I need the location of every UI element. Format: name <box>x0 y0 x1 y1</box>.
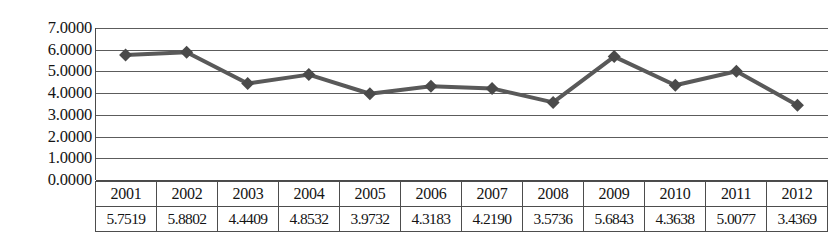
table-cell-year: 2012 <box>767 182 828 207</box>
table-cell-year: 2009 <box>584 182 645 207</box>
table-cell-value: 4.2190 <box>462 207 523 232</box>
data-point-marker <box>302 68 315 81</box>
table-cell-value: 5.6843 <box>584 207 645 232</box>
plot-area <box>95 28 828 180</box>
data-point-marker <box>119 49 132 62</box>
table-cell-year: 2005 <box>340 182 401 207</box>
data-series-line <box>95 28 828 180</box>
table-cell-year: 2010 <box>645 182 706 207</box>
table-cell-value: 5.7519 <box>96 207 157 232</box>
y-tick-label: 7.0000 <box>24 20 92 36</box>
data-point-marker <box>669 79 682 92</box>
y-axis: 7.00006.00005.00004.00003.00002.00001.00… <box>24 18 92 190</box>
data-point-marker <box>486 82 499 95</box>
y-tick-label: 3.0000 <box>24 107 92 123</box>
y-tick-label: 5.0000 <box>24 63 92 79</box>
table-cell-year: 2003 <box>218 182 279 207</box>
table-cell-value: 3.9732 <box>340 207 401 232</box>
table-cell-value: 4.3638 <box>645 207 706 232</box>
table-cell-value: 3.4369 <box>767 207 828 232</box>
chart-figure: 7.00006.00005.00004.00003.00002.00001.00… <box>0 0 840 252</box>
table-cell-value: 3.5736 <box>523 207 584 232</box>
data-point-marker <box>424 80 437 93</box>
series-polyline <box>126 52 798 105</box>
table-cell-year: 2001 <box>96 182 157 207</box>
table-cell-value: 5.0077 <box>706 207 767 232</box>
data-table: 2001200220032004200520062007200820092010… <box>95 181 828 232</box>
table-cell-year: 2002 <box>157 182 218 207</box>
table-cell-value: 4.3183 <box>401 207 462 232</box>
table-cell-value: 4.4409 <box>218 207 279 232</box>
data-point-marker <box>363 87 376 100</box>
table-cell-year: 2008 <box>523 182 584 207</box>
table-cell-year: 2006 <box>401 182 462 207</box>
table-row-values: 5.75195.88024.44094.85323.97324.31834.21… <box>96 207 828 232</box>
table-cell-value: 5.8802 <box>157 207 218 232</box>
y-tick-label: 6.0000 <box>24 42 92 58</box>
y-tick-label: 0.0000 <box>24 172 92 188</box>
y-tick-label: 1.0000 <box>24 150 92 166</box>
table-cell-year: 2004 <box>279 182 340 207</box>
y-tick-label: 2.0000 <box>24 129 92 145</box>
table-cell-year: 2011 <box>706 182 767 207</box>
table-cell-value: 4.8532 <box>279 207 340 232</box>
y-tick-label: 4.0000 <box>24 85 92 101</box>
table-row-years: 2001200220032004200520062007200820092010… <box>96 182 828 207</box>
table-cell-year: 2007 <box>462 182 523 207</box>
